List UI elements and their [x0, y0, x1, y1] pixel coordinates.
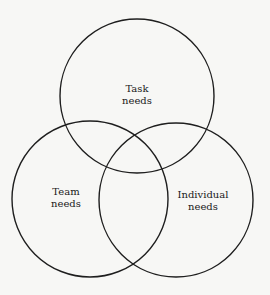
- venn-diagram: [0, 0, 270, 295]
- individual-label-line1: Individual: [178, 189, 229, 201]
- team-needs-label: Team needs: [51, 186, 81, 210]
- task-needs-label: Task needs: [122, 83, 152, 107]
- team-label-line2: needs: [51, 198, 81, 210]
- individual-needs-circle: [99, 123, 253, 277]
- task-label-line1: Task: [122, 83, 152, 95]
- team-needs-circle: [12, 121, 168, 277]
- team-label-line1: Team: [51, 186, 81, 198]
- individual-label-line2: needs: [178, 201, 229, 213]
- individual-needs-label: Individual needs: [178, 189, 229, 213]
- task-label-line2: needs: [122, 95, 152, 107]
